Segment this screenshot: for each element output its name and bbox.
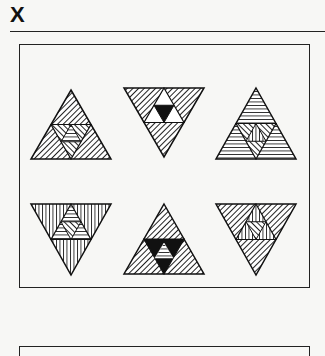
triangle-r1c1 [31,90,111,159]
triangle-r2c1 [31,204,111,275]
triangle-r1c3 [216,88,296,159]
triangle-r2c2 [124,204,204,274]
triangle-r1c2 [124,88,204,157]
triangle-r2c3 [216,204,296,275]
